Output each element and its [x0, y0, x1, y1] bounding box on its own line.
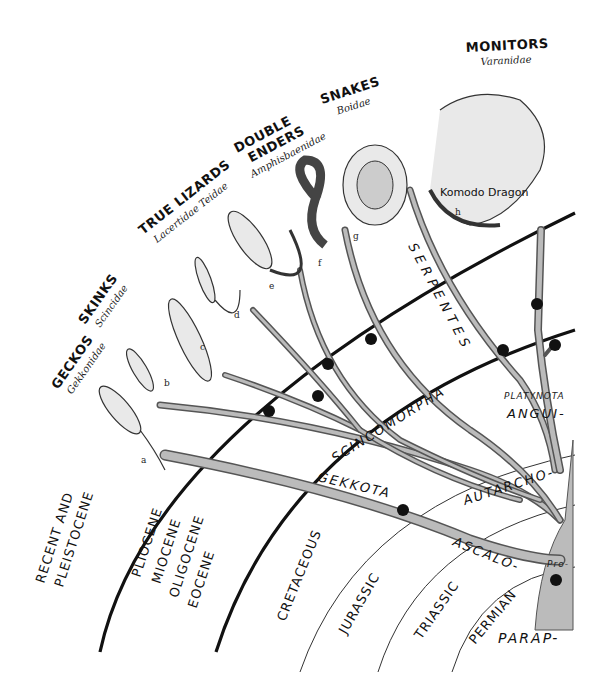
branch-serpentes-2: [410, 190, 555, 470]
phylogeny-diagram: GECKOS Gekkonidae SKINKS Scincidae TRUE …: [0, 0, 609, 682]
clade-platynota: PLATYNOTA: [504, 391, 565, 401]
node-dot: [312, 390, 324, 402]
node-dot: [322, 358, 334, 370]
clade-parap: PARAP-: [498, 630, 559, 646]
node-dot: [550, 574, 562, 586]
amphisbaenian-illustration-f: [300, 160, 325, 245]
letter-b: b: [164, 378, 170, 388]
clade-pro: Pro-: [547, 559, 569, 569]
letter-f: f: [318, 258, 322, 268]
node-dot: [497, 344, 509, 356]
letter-e: e: [269, 281, 274, 291]
node-dot: [531, 298, 543, 310]
era-cretaceous: CRETACEOUS: [274, 527, 324, 623]
lizard-illustration-d: [191, 255, 240, 312]
era-jurassic: JURASSIC: [335, 570, 383, 637]
node-dot: [549, 339, 561, 351]
node-dot: [263, 405, 275, 417]
letter-h: h: [455, 207, 461, 217]
gecko-illustration: [93, 381, 165, 470]
node-dot: [365, 333, 377, 345]
node-dot: [397, 504, 409, 516]
era-triassic: TRIASSIC: [411, 578, 462, 642]
letter-a: a: [141, 455, 147, 465]
skink-illustration-b: [122, 346, 158, 395]
clade-angui: ANGUI-: [506, 406, 566, 421]
komodo-dragon-label: Komodo Dragon: [440, 186, 528, 199]
boa-illustration-g: [343, 145, 407, 225]
group-family-monitors: Varanidae: [480, 54, 532, 68]
letter-c: c: [200, 342, 205, 352]
letter-d: d: [234, 310, 240, 320]
letter-g: g: [353, 231, 359, 241]
skink-illustration-c: [161, 295, 219, 386]
komodo-dragon-illustration-h: [430, 94, 545, 225]
group-title-monitors: MONITORS: [465, 36, 549, 55]
lizard-illustration-e: [221, 205, 302, 275]
